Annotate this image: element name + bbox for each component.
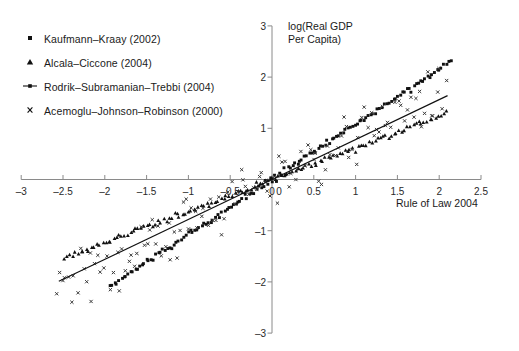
- line-with-dot-marker-icon: [22, 74, 40, 98]
- y-tick-label: –1: [248, 225, 266, 236]
- figure-scatter-plot: Kaufmann–Kraay (2002) Alcala–Ciccone (20…: [0, 0, 519, 351]
- legend-label-alcala-ciccone: Alcala–Ciccone (2004): [44, 51, 152, 75]
- x-tick-label: 2.5: [474, 186, 488, 197]
- x-marker-icon: [22, 98, 40, 122]
- legend: Kaufmann–Kraay (2002) Alcala–Ciccone (20…: [22, 26, 252, 122]
- y-tick-label: 2: [248, 72, 266, 83]
- x-tick-label: –2.5: [53, 186, 72, 197]
- y-axis-title-line1: log(Real GDP: [288, 20, 353, 33]
- x-tick-label: –1: [183, 186, 194, 197]
- legend-item-alcala-ciccone[interactable]: Alcala–Ciccone (2004): [22, 50, 252, 74]
- y-tick-label: –3: [248, 328, 266, 339]
- legend-label-kaufmann-kraay: Kaufmann–Kraay (2002): [44, 27, 161, 51]
- x-tick-label: 0.5: [307, 186, 321, 197]
- legend-item-acemoglu-johnson-robinson[interactable]: Acemoglu–Johnson–Robinson (2000): [22, 98, 252, 122]
- legend-item-kaufmann-kraay[interactable]: Kaufmann–Kraay (2002): [22, 26, 252, 50]
- y-axis-title-line2: Per Capita): [288, 33, 353, 46]
- x-tick-label: –2: [99, 186, 110, 197]
- x-tick-label: –1.5: [137, 186, 156, 197]
- y-axis-title: log(Real GDP Per Capita): [288, 20, 353, 46]
- x-tick-label: –3: [16, 186, 27, 197]
- y-tick-label: 1: [248, 123, 266, 134]
- square-marker-icon: [22, 26, 40, 50]
- legend-label-acemoglu-johnson-robinson: Acemoglu–Johnson–Robinson (2000): [44, 99, 223, 123]
- y-tick-label: 3: [248, 20, 266, 31]
- y-tick-label: –2: [248, 276, 266, 287]
- legend-item-rodrik-subramanian-trebbi[interactable]: Rodrik–Subramanian–Trebbi (2004): [22, 74, 252, 98]
- triangle-marker-icon: [22, 50, 40, 74]
- x-tick-label: 1.5: [390, 186, 404, 197]
- x-tick-label: –0.5: [220, 186, 239, 197]
- x-axis-title: Rule of Law 2004: [396, 197, 478, 209]
- x-tick-label: 1: [353, 186, 359, 197]
- x-tick-label: 0: [269, 186, 275, 197]
- legend-label-rodrik-subramanian-trebbi: Rodrik–Subramanian–Trebbi (2004): [44, 75, 214, 99]
- x-tick-label: 2: [436, 186, 442, 197]
- origin-tick-label: 0: [276, 186, 282, 197]
